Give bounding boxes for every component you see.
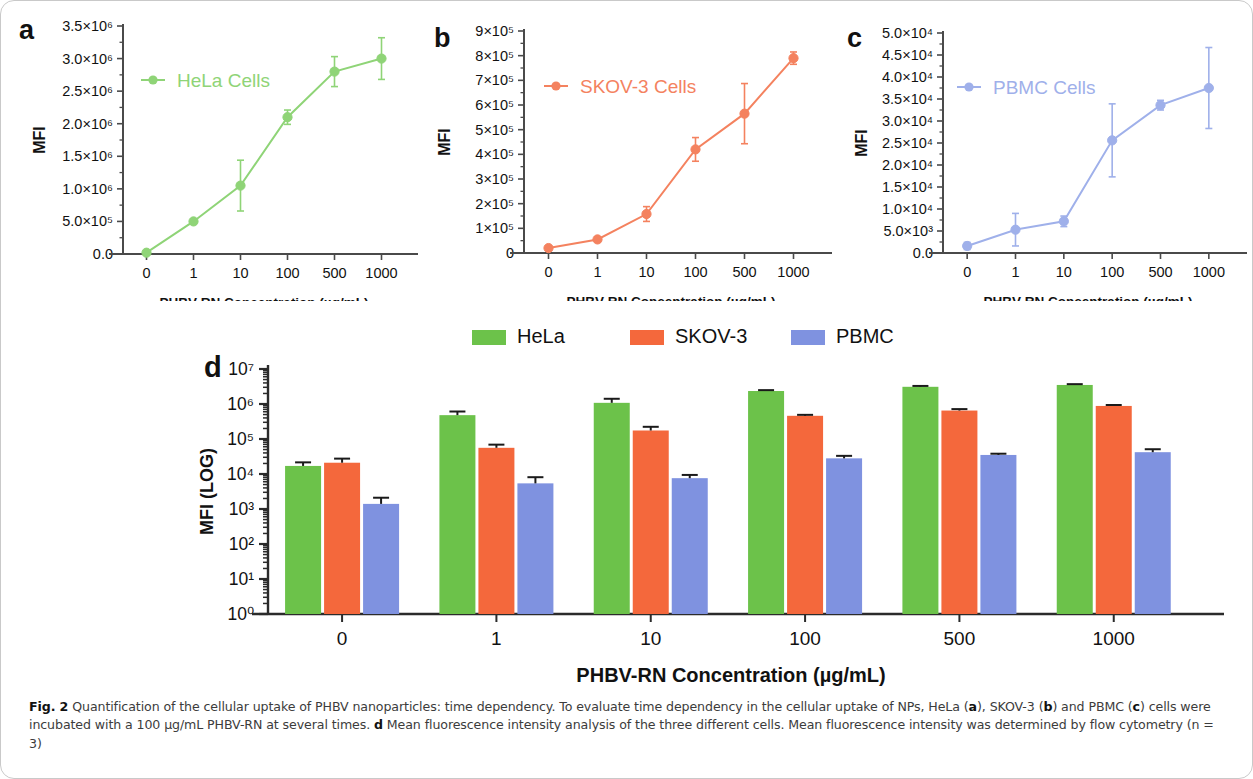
y-tick-label: 2.0×10⁴	[882, 157, 933, 173]
bar-hela	[1057, 385, 1093, 614]
bar-skov-3	[324, 463, 360, 614]
bar-hela	[748, 391, 784, 614]
caption-ref-d: d	[374, 717, 383, 732]
caption-part-2: ), SKOV-3 (	[977, 699, 1043, 714]
bar-pbmc	[1135, 452, 1171, 614]
y-tick-label: 5.0×10⁵	[62, 213, 113, 229]
x-tick-label: 10	[638, 264, 654, 280]
x-tick-label: 0	[142, 265, 150, 281]
x-tick-label: 100	[683, 264, 707, 280]
y-tick-label: 5.0×10⁴	[882, 25, 933, 41]
x-tick-label: 500	[1148, 264, 1172, 280]
y-tick-label: 10⁰	[228, 604, 254, 624]
y-tick-label: 10²	[229, 534, 254, 554]
y-tick-label: 1.5×10⁶	[62, 148, 113, 164]
top-panel-row: a 3.5×10⁶3.0×10⁶2.5×10⁶2.0×10⁶1.5×10⁶1.0…	[1, 1, 1253, 301]
x-axis-label: PHBV-RN Concentration (µg/mL)	[576, 664, 885, 686]
legend-label-pbmc: PBMC	[836, 325, 894, 347]
bar-skov-3	[633, 430, 669, 614]
bar-pbmc	[826, 458, 862, 614]
y-tick-label: 9×10⁵	[475, 23, 514, 39]
data-point	[1156, 101, 1165, 110]
data-point	[189, 217, 198, 226]
panel-a-chart: 3.5×10⁶3.0×10⁶2.5×10⁶2.0×10⁶1.5×10⁶1.0×1…	[1, 1, 418, 301]
y-tick-label: 10⁷	[228, 359, 254, 379]
y-axis-label: MFI	[31, 126, 48, 154]
x-tick-label: 1	[491, 628, 502, 649]
y-tick-label: 8×10⁵	[475, 48, 514, 64]
y-tick-label: 10⁶	[227, 394, 254, 414]
y-tick-label: 2.5×10⁴	[882, 135, 933, 151]
data-point	[544, 243, 553, 252]
figure-caption: Fig. 2 Quantification of the cellular up…	[29, 698, 1225, 753]
legend-label: HeLa Cells	[177, 70, 270, 91]
x-tick-label: 100	[275, 265, 299, 281]
y-tick-label: 2×10⁵	[475, 196, 514, 212]
data-point	[283, 113, 292, 122]
bar-skov-3	[787, 416, 823, 614]
x-tick-label: 1	[189, 265, 197, 281]
panel-c: c 5.0×10⁴4.5×10⁴4.0×10⁴3.5×10⁴3.0×10⁴2.5…	[835, 1, 1252, 301]
panel-a-letter: a	[19, 15, 34, 46]
data-point	[789, 54, 798, 63]
panel-b-letter: b	[434, 23, 450, 54]
panel-c-chart: 5.0×10⁴4.5×10⁴4.0×10⁴3.5×10⁴3.0×10⁴2.5×1…	[835, 1, 1253, 301]
bar-pbmc	[517, 483, 553, 614]
panel-a: a 3.5×10⁶3.0×10⁶2.5×10⁶2.0×10⁶1.5×10⁶1.0…	[1, 1, 418, 301]
y-tick-label: 3.5×10⁶	[62, 18, 113, 34]
legend-marker	[148, 75, 157, 84]
legend-label: PBMC Cells	[993, 77, 1095, 98]
y-axis-label: MFI	[436, 128, 453, 156]
x-tick-label: 10	[1056, 264, 1072, 280]
y-tick-label: 3.5×10⁴	[882, 91, 933, 107]
y-tick-label: 10³	[229, 499, 254, 519]
panel-d-chart: 10⁷10⁶10⁵10⁴10³10²10¹10⁰01101005001000MF…	[1, 301, 1253, 691]
x-tick-label: 500	[322, 265, 346, 281]
legend-label-hela: HeLa	[517, 325, 566, 347]
legend-label-skov-3: SKOV-3	[675, 325, 747, 347]
x-tick-label: 1	[1011, 264, 1019, 280]
bar-pbmc	[672, 478, 708, 614]
y-tick-label: 4.5×10⁴	[882, 47, 933, 63]
x-tick-label: 1000	[1093, 628, 1135, 649]
data-point	[963, 241, 972, 250]
bar-skov-3	[1096, 406, 1132, 614]
y-tick-label: 2.5×10⁶	[62, 83, 113, 99]
y-tick-label: 4×10⁵	[475, 146, 514, 162]
figure-container: a 3.5×10⁶3.0×10⁶2.5×10⁶2.0×10⁶1.5×10⁶1.0…	[0, 0, 1253, 779]
y-tick-label: 10¹	[229, 569, 254, 589]
data-point	[1204, 83, 1213, 92]
panel-b: b 9×10⁵8×10⁵7×10⁵6×10⁵5×10⁵4×10⁵3×10⁵2×1…	[418, 1, 835, 301]
legend-marker	[964, 82, 973, 91]
x-tick-label: 0	[337, 628, 348, 649]
y-tick-label: 6×10⁵	[475, 97, 514, 113]
data-point	[740, 109, 749, 118]
y-axis-label: MFI	[853, 129, 870, 157]
x-tick-label: 100	[789, 628, 821, 649]
data-line	[967, 88, 1209, 246]
x-tick-label: 0	[544, 264, 552, 280]
y-tick-label: 1×10⁵	[475, 220, 514, 236]
panel-c-letter: c	[847, 23, 862, 54]
y-tick-label: 2.0×10⁶	[62, 116, 113, 132]
data-point	[1059, 217, 1068, 226]
y-tick-label: 10⁵	[227, 429, 254, 449]
y-tick-label: 3×10⁵	[475, 171, 514, 187]
y-tick-label: 5.0×10³	[883, 223, 933, 239]
data-point	[377, 54, 386, 63]
data-point	[691, 145, 700, 154]
caption-part-3: ) and PBMC (	[1052, 699, 1132, 714]
legend-label: SKOV-3 Cells	[580, 76, 696, 97]
y-tick-label: 7×10⁵	[475, 72, 514, 88]
caption-ref-c: c	[1133, 699, 1140, 714]
bar-pbmc	[980, 455, 1016, 614]
bar-skov-3	[478, 448, 514, 614]
data-point	[593, 235, 602, 244]
bar-hela	[902, 387, 938, 614]
x-tick-label: 0	[963, 264, 971, 280]
bar-hela	[439, 415, 475, 614]
y-tick-label: 10⁴	[227, 464, 254, 484]
x-tick-label: 10	[640, 628, 661, 649]
y-axis-label: MFI (LOG)	[197, 448, 217, 535]
x-tick-label: 500	[944, 628, 976, 649]
